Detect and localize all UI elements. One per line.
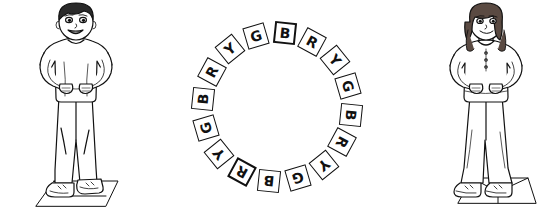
letter-tile[interactable]: B [273, 21, 297, 45]
letter-tile[interactable]: G [242, 22, 269, 49]
boy-figure [14, 0, 144, 215]
letter-tile[interactable]: B [191, 87, 215, 111]
letter-tile[interactable]: Y [215, 34, 246, 65]
letter-tile[interactable]: Y [319, 45, 350, 76]
activity-scene: BRYGBRYGBRYGBRYG [0, 0, 554, 215]
letter-ring: BRYGBRYGBRYGBRYG [185, 2, 370, 212]
letter-tile[interactable]: B [257, 169, 281, 193]
letter-tile[interactable]: G [284, 164, 311, 191]
letter-tile[interactable]: R [327, 127, 357, 157]
letter-tile[interactable]: B [339, 103, 363, 127]
girl-figure [420, 0, 545, 215]
letter-tile[interactable]: G [192, 114, 219, 141]
girl-illustration [420, 0, 545, 215]
letter-tile[interactable]: R [197, 57, 227, 87]
letter-tile[interactable]: Y [308, 149, 339, 180]
letter-tile[interactable]: R [227, 157, 257, 187]
boy-illustration [14, 0, 144, 215]
letter-tile[interactable]: R [297, 27, 327, 57]
letter-tile[interactable]: Y [204, 138, 235, 169]
letter-tile[interactable]: G [334, 72, 361, 99]
